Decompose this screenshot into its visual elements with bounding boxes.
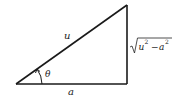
opposite-exp-u: 2 (145, 38, 149, 45)
adjacent-label: a (68, 86, 74, 97)
opposite-label: u 2 − a 2 (130, 38, 172, 53)
right-triangle-diagram: u θ a u 2 − a 2 (0, 0, 180, 99)
opposite-minus: − (151, 42, 159, 52)
opposite-exp-a: 2 (165, 38, 169, 45)
hypotenuse-label: u (64, 30, 70, 41)
angle-label: θ (45, 69, 51, 79)
hypotenuse-side (16, 5, 127, 84)
opposite-var-a: a (159, 42, 164, 52)
